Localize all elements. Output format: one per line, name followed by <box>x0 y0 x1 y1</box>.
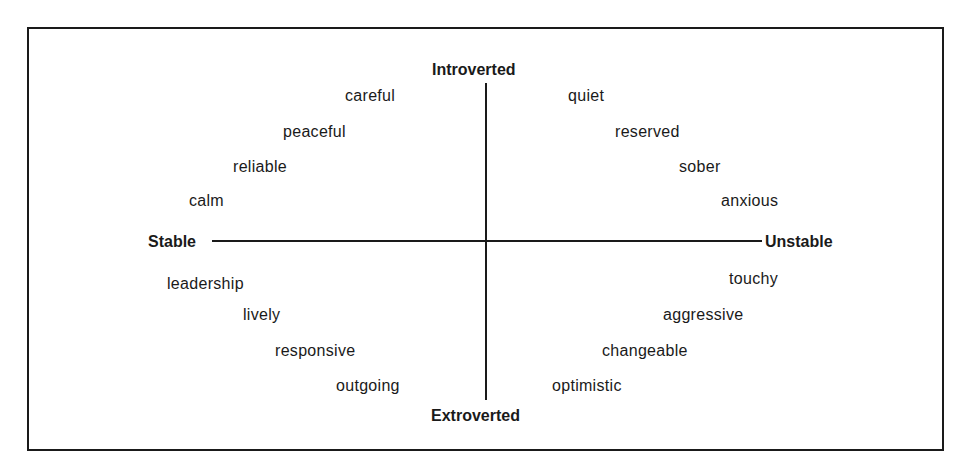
trait-reserved: reserved <box>615 123 680 141</box>
trait-calm: calm <box>189 192 224 210</box>
trait-careful: careful <box>345 87 395 105</box>
axis-label-unstable: Unstable <box>765 233 833 251</box>
trait-changeable: changeable <box>602 342 688 360</box>
trait-leadership: leadership <box>167 275 244 293</box>
trait-optimistic: optimistic <box>552 377 622 395</box>
trait-anxious: anxious <box>721 192 778 210</box>
trait-aggressive: aggressive <box>663 306 743 324</box>
trait-responsive: responsive <box>275 342 355 360</box>
trait-sober: sober <box>679 158 721 176</box>
trait-touchy: touchy <box>729 270 778 288</box>
axis-label-extroverted: Extroverted <box>431 407 520 425</box>
trait-lively: lively <box>243 306 280 324</box>
trait-reliable: reliable <box>233 158 287 176</box>
stable-unstable-axis <box>212 240 762 242</box>
trait-outgoing: outgoing <box>336 377 400 395</box>
axis-label-introverted: Introverted <box>432 61 516 79</box>
axis-label-stable: Stable <box>148 233 196 251</box>
trait-peaceful: peaceful <box>283 123 346 141</box>
trait-quiet: quiet <box>568 87 604 105</box>
